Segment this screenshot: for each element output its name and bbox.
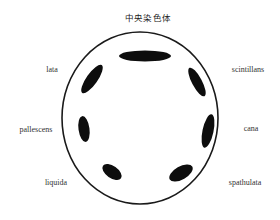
label-lata: lata xyxy=(46,66,58,74)
chromosome-top-central xyxy=(119,51,171,62)
label-spathulata: spathulata xyxy=(229,179,261,187)
chromosome-lower-left xyxy=(100,161,125,183)
label-pallescens: pallescens xyxy=(20,126,53,134)
chromosome-upper-left xyxy=(78,62,107,96)
label-cana: cana xyxy=(244,125,259,133)
chromosome-group xyxy=(77,51,217,186)
chromosome-lower-right xyxy=(166,161,195,185)
chromosome-ring-diagram: 中央染色体 lata scintillans pallescens cana l… xyxy=(0,0,280,220)
chromosome-mid-left xyxy=(77,115,92,142)
label-scintillans: scintillans xyxy=(232,66,264,74)
label-liquida: liquida xyxy=(45,179,67,187)
diagram-title: 中央染色体 xyxy=(125,14,172,23)
diagram-canvas xyxy=(0,0,280,220)
